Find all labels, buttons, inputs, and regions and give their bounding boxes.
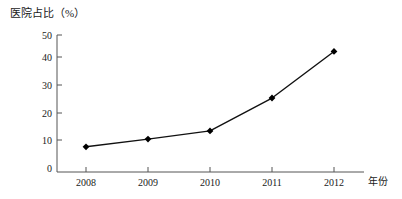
data-point-2009 — [145, 136, 152, 143]
data-point-2010 — [207, 128, 214, 135]
data-series-line — [83, 48, 338, 150]
data-point-markers — [83, 48, 338, 150]
y-axis-ticks — [57, 57, 62, 140]
plot-area — [0, 0, 402, 199]
axis-lines — [57, 35, 364, 172]
data-point-2008 — [83, 143, 90, 150]
x-axis-ticks — [86, 167, 334, 172]
axes — [57, 35, 364, 172]
chart-container: 医院占比（%） 年份 50 40 30 20 10 0 2008 2009 20… — [0, 0, 402, 199]
